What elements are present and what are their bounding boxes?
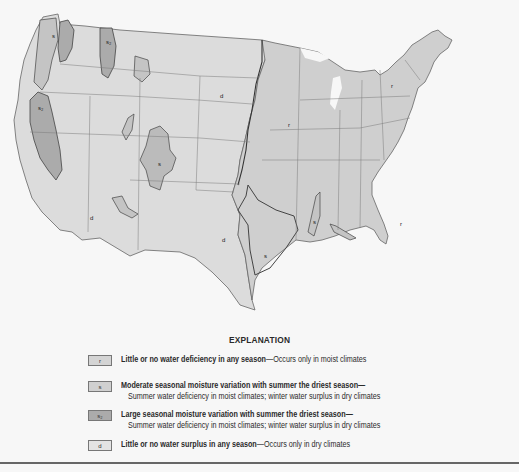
legend-text-d: Little or no water surplus in any season…: [121, 440, 350, 451]
bottom-rule: [0, 462, 519, 464]
legend-title: EXPLANATION: [31, 334, 488, 345]
legend-text-r: Little or no water deficiency in any sea…: [121, 355, 366, 366]
svg-text:d: d: [220, 93, 223, 99]
svg-text:r: r: [288, 122, 290, 128]
legend-text-s2: Large seasonal moisture variation with s…: [121, 410, 380, 431]
legend-swatch-s: s: [88, 381, 112, 392]
legend-text-s: Moderate seasonal moisture variation wit…: [121, 381, 380, 402]
svg-text:d: d: [222, 237, 225, 243]
legend-item-s: s Moderate seasonal moisture variation w…: [88, 381, 416, 402]
legend-label-sub: Summer water deficiency in moist climate…: [121, 392, 380, 401]
legend-label-bold: Moderate seasonal moisture variation wit…: [121, 381, 365, 390]
legend-item-s2: s₂ Large seasonal moisture variation wit…: [88, 410, 416, 431]
svg-text:s₂: s₂: [106, 39, 112, 45]
legend-swatch-d: d: [88, 440, 112, 451]
legend-label-bold: Large seasonal moisture variation with s…: [121, 410, 353, 419]
legend-item-r: r Little or no water deficiency in any s…: [88, 355, 400, 366]
svg-text:s₂: s₂: [38, 105, 44, 111]
svg-text:s: s: [313, 219, 316, 225]
legend-label-bold: Little or no water deficiency in any sea…: [121, 355, 266, 364]
svg-text:s: s: [158, 161, 161, 167]
svg-text:s: s: [264, 253, 267, 259]
legend-label-bold: Little or no water surplus in any season: [121, 440, 257, 449]
svg-text:r: r: [391, 83, 393, 89]
legend-item-d: d Little or no water surplus in any seas…: [88, 440, 381, 451]
legend-label-sub: Summer water deficiency in moist climate…: [121, 421, 380, 430]
legend-label-rest: —Occurs only in moist climates: [266, 355, 366, 364]
legend-swatch-s2: s₂: [88, 410, 112, 421]
legend-swatch-r: r: [88, 355, 112, 366]
legend-label-rest: —Occurs only in dry climates: [257, 440, 350, 449]
svg-text:s: s: [52, 33, 55, 39]
us-moisture-map: r r r s s d d d s₂ s₂ s s: [0, 0, 519, 330]
svg-text:r: r: [400, 221, 402, 227]
svg-text:d: d: [90, 215, 93, 221]
eastern-us-region: [232, 30, 452, 300]
